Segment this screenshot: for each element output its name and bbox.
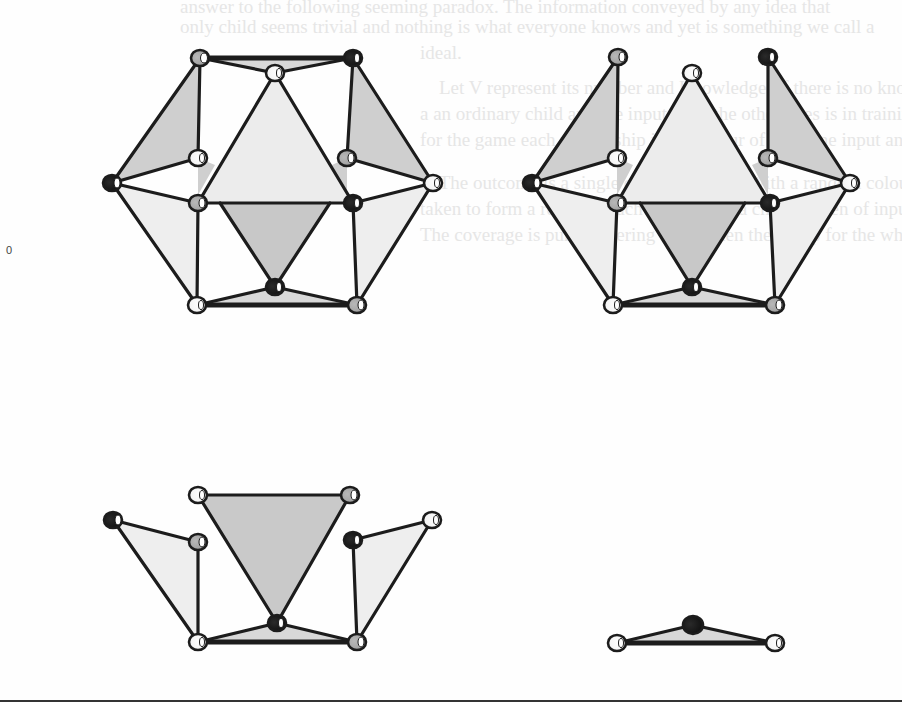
node-black xyxy=(683,616,703,634)
node-white xyxy=(188,297,206,313)
node-gray xyxy=(189,534,207,550)
node-black xyxy=(761,195,779,211)
node-gray xyxy=(348,634,366,650)
node-gray xyxy=(338,150,356,166)
figures-canvas xyxy=(0,0,902,710)
figure-c-partial-structure xyxy=(104,487,441,650)
face-front-top-triangle xyxy=(617,73,770,203)
face-front-bottom-triangle xyxy=(220,203,330,287)
node-black xyxy=(344,195,362,211)
node-gray xyxy=(766,297,784,313)
node-white xyxy=(608,635,626,651)
node-white xyxy=(608,150,626,166)
node-black xyxy=(266,279,284,295)
node-white xyxy=(841,175,859,191)
node-gray xyxy=(609,49,627,65)
node-white xyxy=(189,150,207,166)
node-gray xyxy=(191,50,209,66)
node-gray xyxy=(348,297,366,313)
node-black xyxy=(759,49,777,65)
node-white xyxy=(766,635,784,651)
face-front-top-triangle xyxy=(198,73,353,203)
node-gray xyxy=(341,487,359,503)
face-center-triangle xyxy=(198,495,350,623)
node-black xyxy=(104,512,122,528)
node-gray xyxy=(759,150,777,166)
node-black xyxy=(268,615,286,631)
figure-d-single-triangle xyxy=(608,616,784,651)
node-white xyxy=(266,65,284,81)
node-black xyxy=(103,175,121,191)
figure-d-nodes xyxy=(608,616,784,651)
node-white xyxy=(604,297,622,313)
node-black xyxy=(344,50,362,66)
node-white xyxy=(189,487,207,503)
book-page: answer to the following seeming paradox.… xyxy=(0,0,902,710)
bottom-rule-divider xyxy=(0,700,902,702)
node-gray xyxy=(608,195,626,211)
node-white xyxy=(423,512,441,528)
node-black xyxy=(523,175,541,191)
node-white xyxy=(189,634,207,650)
node-black xyxy=(683,279,701,295)
node-gray xyxy=(189,195,207,211)
node-white xyxy=(424,175,442,191)
face-front-bottom-triangle xyxy=(640,203,745,287)
figure-a-complete-cuboctahedron xyxy=(103,50,442,313)
node-black xyxy=(344,532,362,548)
figure-b-opened-cuboctahedron xyxy=(523,49,859,313)
node-white xyxy=(683,65,701,81)
